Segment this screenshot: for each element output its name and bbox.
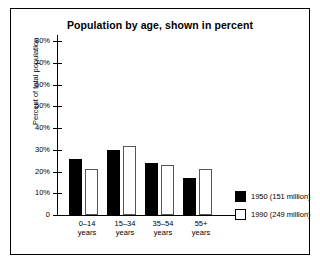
- y-tick-60%: [53, 85, 62, 86]
- y-tick-label: 60%: [35, 81, 50, 89]
- bar: [145, 163, 158, 215]
- y-tick-70%: [53, 63, 62, 64]
- y-tick-label: 40%: [35, 124, 50, 132]
- bar-group: [183, 169, 212, 215]
- bar-group: [107, 146, 136, 215]
- y-tick-50%: [53, 106, 62, 107]
- legend-label-1990: 1990 (249 million): [251, 211, 311, 219]
- y-tick-20%: [53, 172, 62, 173]
- bar: [199, 169, 212, 215]
- y-tick-10%: [53, 193, 62, 194]
- chart-title: Population by age, shown in percent: [11, 19, 309, 31]
- bar: [85, 169, 98, 215]
- y-tick-80%: [53, 41, 62, 42]
- bar-group: [69, 159, 98, 215]
- y-tick-label: 0: [46, 211, 50, 219]
- x-axis-line: [57, 215, 237, 216]
- bar: [183, 178, 196, 215]
- legend-label-1950: 1950 (151 million): [251, 193, 311, 201]
- legend-item-1950: 1950 (151 million): [235, 191, 311, 202]
- y-tick-label: 70%: [35, 59, 50, 67]
- bar: [161, 165, 174, 215]
- y-tick-label: 50%: [35, 103, 50, 111]
- bar-group: [145, 163, 174, 215]
- legend-item-1990: 1990 (249 million): [235, 209, 311, 220]
- bar: [107, 150, 120, 215]
- y-tick-30%: [53, 150, 62, 151]
- y-tick-label: 10%: [35, 190, 50, 198]
- x-category-label: 55+years: [178, 219, 224, 237]
- y-tick-label: 80%: [35, 38, 50, 46]
- y-tick-label: 30%: [35, 146, 50, 154]
- legend-swatch-1950: [235, 191, 246, 202]
- y-tick-0: [53, 215, 62, 216]
- y-tick-40%: [53, 128, 62, 129]
- chart-legend: 1950 (151 million) 1990 (249 million): [235, 191, 311, 227]
- legend-swatch-1990: [235, 209, 246, 220]
- y-tick-label: 20%: [35, 168, 50, 176]
- plot-area: 80%70%60%50%40%30%20%10%0 0–14years15–34…: [57, 35, 237, 216]
- bar: [69, 159, 82, 215]
- chart-figure: Population by age, shown in percent Perc…: [10, 8, 310, 255]
- bar: [123, 146, 136, 215]
